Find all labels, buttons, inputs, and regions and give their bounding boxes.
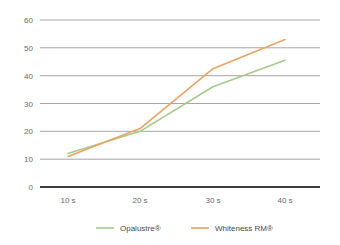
y-tick-label-50: 50: [24, 44, 33, 53]
y-tick-label-60: 60: [24, 16, 33, 25]
y-tick-label-10: 10: [24, 155, 33, 164]
legend-label-opalustre: Opalustre®: [120, 224, 161, 233]
y-tick-label-30: 30: [24, 100, 33, 109]
x-tick-label-20s: 20 s: [132, 196, 147, 205]
x-tick-label-30s: 30 s: [205, 196, 220, 205]
y-tick-label-0: 0: [29, 183, 34, 192]
y-tick-label-40: 40: [24, 72, 33, 81]
x-tick-label-10s: 10 s: [60, 196, 75, 205]
line-chart: 60 50 40 30 20 10 0 10 s 20 s 30 s 40 s …: [0, 0, 340, 245]
legend-label-whiteness-rm: Whiteness RM®: [215, 224, 273, 233]
chart-background: [0, 0, 340, 245]
chart-canvas: 60 50 40 30 20 10 0 10 s 20 s 30 s 40 s …: [0, 0, 340, 245]
y-tick-label-20: 20: [24, 127, 33, 136]
x-tick-label-40s: 40 s: [277, 196, 292, 205]
